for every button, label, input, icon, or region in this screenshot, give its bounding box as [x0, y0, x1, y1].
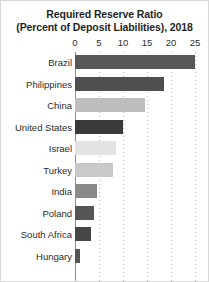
- chart-card: Required Reserve Ratio (Percent of Depos…: [0, 0, 209, 282]
- bar-south-africa: [75, 227, 91, 241]
- plot-area: 0510152025 BrazilPhilippinesChinaUnited …: [1, 37, 209, 281]
- bar-category-label: Israel: [49, 142, 72, 155]
- bar-row: Brazil: [1, 53, 209, 74]
- x-axis-tick-label-25: 25: [190, 37, 201, 49]
- bar-row: China: [1, 96, 209, 117]
- bar-hungary: [75, 249, 80, 263]
- bar-category-label: China: [47, 99, 72, 112]
- x-axis-tick-label-20: 20: [166, 37, 177, 49]
- x-axis-tick-label-0: 0: [72, 37, 77, 49]
- bar-category-label: India: [51, 185, 72, 198]
- bar-category-label: Turkey: [43, 164, 72, 177]
- bar-category-label: Hungary: [36, 250, 72, 263]
- x-axis-tick-label-5: 5: [96, 37, 101, 49]
- page-title: Required Reserve Ratio: [1, 8, 208, 21]
- bar-row: Philippines: [1, 75, 209, 96]
- chart-title-block: Required Reserve Ratio (Percent of Depos…: [1, 1, 208, 34]
- bar-row: Israel: [1, 139, 209, 160]
- bar-category-label: Poland: [42, 207, 72, 220]
- bar-china: [75, 98, 145, 112]
- bar-row: Hungary: [1, 247, 209, 268]
- x-axis-tick-label-10: 10: [118, 37, 129, 49]
- bar-united-states: [75, 120, 123, 134]
- bar-india: [75, 184, 97, 198]
- chart-subtitle: (Percent of Deposit Liabilities), 2018: [1, 21, 208, 34]
- x-axis-tick-labels: 0510152025: [1, 37, 209, 52]
- bar-series: BrazilPhilippinesChinaUnited StatesIsrae…: [1, 52, 209, 281]
- bar-philippines: [75, 77, 164, 91]
- bar-row: India: [1, 182, 209, 203]
- bar-poland: [75, 206, 94, 220]
- bar-category-label: South Africa: [21, 228, 72, 241]
- x-axis-tick-label-15: 15: [142, 37, 153, 49]
- bar-turkey: [75, 163, 113, 177]
- bar-category-label: Brazil: [48, 56, 72, 69]
- bar-category-label: United States: [15, 121, 72, 134]
- bar-row: Poland: [1, 204, 209, 225]
- bar-brazil: [75, 55, 195, 69]
- bar-row: Turkey: [1, 161, 209, 182]
- bar-row: South Africa: [1, 225, 209, 246]
- bar-category-label: Philippines: [26, 78, 72, 91]
- bar-israel: [75, 141, 116, 155]
- bar-row: United States: [1, 118, 209, 139]
